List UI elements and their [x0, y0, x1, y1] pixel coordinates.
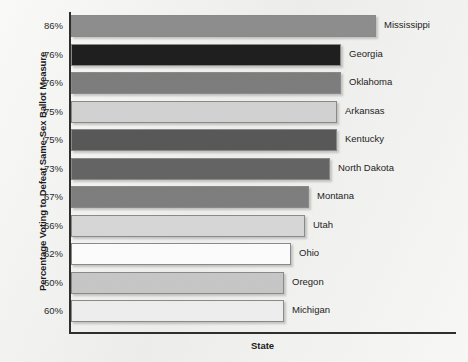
bar-category-label: Georgia	[349, 48, 383, 59]
bar-row: Arkansas	[71, 101, 458, 123]
bar[interactable]	[71, 272, 284, 294]
bar-category-label: Michigan	[292, 304, 330, 315]
bar-category-label: Kentucky	[345, 133, 384, 144]
bar-category-label: Arkansas	[345, 105, 385, 116]
bar-category-label: North Dakota	[338, 162, 394, 173]
bar-row: North Dakota	[71, 158, 458, 180]
x-axis-title: State	[69, 340, 456, 351]
y-axis-tick-label: 60%	[5, 305, 63, 316]
bar-category-label: Montana	[317, 190, 354, 201]
bar-row: Ohio	[71, 243, 458, 265]
bar[interactable]	[71, 129, 337, 151]
bar-category-label: Oklahoma	[349, 76, 392, 87]
bar[interactable]	[71, 44, 341, 66]
bar-chart: Percentage Voting to Defeat Same-Sex Bal…	[0, 0, 468, 362]
bar[interactable]	[71, 186, 309, 208]
x-axis-line	[69, 332, 456, 334]
y-axis-tick-label: 66%	[5, 220, 63, 231]
bar[interactable]	[71, 15, 376, 37]
y-axis-tick-label: 60%	[5, 277, 63, 288]
bar-category-label: Oregon	[292, 276, 324, 287]
bar[interactable]	[71, 300, 284, 322]
bar-row: Mississippi	[71, 15, 458, 37]
y-axis-tick-labels: 86%76%76%75%75%73%67%66%62%60%60%	[3, 12, 63, 334]
bar-category-label: Utah	[313, 219, 333, 230]
bar-row: Kentucky	[71, 129, 458, 151]
y-axis-tick-label: 67%	[5, 191, 63, 202]
bar[interactable]	[71, 158, 330, 180]
bar-row: Oklahoma	[71, 72, 458, 94]
y-axis-tick-label: 86%	[5, 20, 63, 31]
y-axis-tick-label: 73%	[5, 163, 63, 174]
bar-category-label: Mississippi	[384, 19, 430, 30]
bar[interactable]	[71, 215, 305, 237]
bar-row: Michigan	[71, 300, 458, 322]
y-axis-tick-label: 62%	[5, 248, 63, 259]
y-axis-tick-label: 75%	[5, 106, 63, 117]
y-axis-tick-label: 76%	[5, 49, 63, 60]
bar[interactable]	[71, 72, 341, 94]
plot-area: MississippiGeorgiaOklahomaArkansasKentuc…	[69, 12, 456, 334]
bar-row: Georgia	[71, 44, 458, 66]
bar-row: Montana	[71, 186, 458, 208]
y-axis-tick-label: 76%	[5, 77, 63, 88]
bar[interactable]	[71, 243, 291, 265]
bar-row: Oregon	[71, 272, 458, 294]
y-axis-tick-label: 75%	[5, 134, 63, 145]
bar[interactable]	[71, 101, 337, 123]
bar-row: Utah	[71, 215, 458, 237]
bar-category-label: Ohio	[299, 247, 319, 258]
